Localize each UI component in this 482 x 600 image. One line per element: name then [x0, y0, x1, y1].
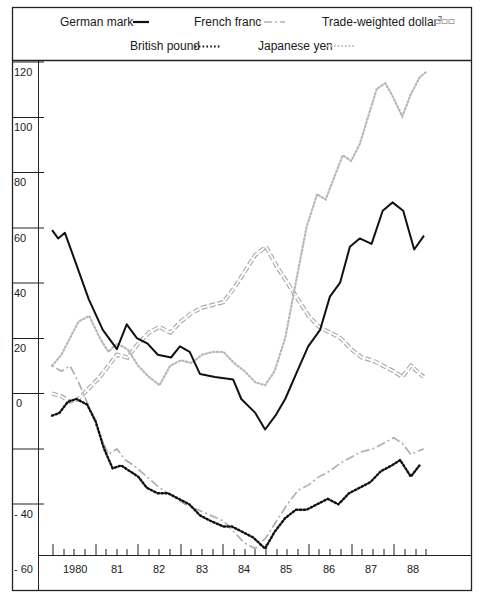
y-tick-label: - 60 — [14, 563, 33, 575]
exchange-rate-chart: German mark French franc Trade-weighted … — [0, 0, 482, 600]
x-tick-label: 85 — [280, 563, 292, 575]
legend-label-french-franc: French franc — [194, 15, 261, 29]
series-british-pound — [52, 399, 419, 549]
legend: German mark French franc Trade-weighted … — [60, 14, 454, 53]
series-german-mark — [52, 202, 424, 429]
y-tick-label: 120 — [14, 66, 32, 78]
y-tick-label: 40 — [14, 287, 26, 299]
legend-label-trade-weighted-dollar: Trade-weighted dollar2 — [322, 14, 443, 29]
y-tick-label: 60 — [14, 232, 26, 244]
y-tick-label: 0 — [16, 397, 22, 409]
y-tick-label: 100 — [14, 121, 32, 133]
legend-label-british-pound: British pound — [130, 39, 200, 53]
x-tick-label: 81 — [111, 563, 123, 575]
chart-frame — [13, 8, 472, 591]
y-tick-label: - 40 — [14, 508, 33, 520]
x-tick-label: 86 — [323, 563, 335, 575]
y-tick-label: 20 — [14, 342, 26, 354]
legend-label-japanese-yen: Japanese yen — [258, 39, 333, 53]
x-tick-label: 82 — [153, 563, 165, 575]
x-axis-labels: 1980 81 82 83 84 85 86 87 88 — [63, 563, 419, 575]
x-tick-label: 84 — [238, 563, 250, 575]
y-axis-labels: 120 100 80 60 40 20 0 - 40 - 60 — [14, 66, 33, 575]
y-tick-label: 80 — [14, 176, 26, 188]
x-axis-ticks — [53, 544, 426, 555]
series-trade-weighted-dollar — [52, 247, 424, 402]
x-tick-label: 88 — [407, 563, 419, 575]
series-trade-weighted-dollar-inner — [52, 247, 424, 402]
x-tick-label: 83 — [196, 563, 208, 575]
x-tick-label: 1980 — [63, 563, 87, 575]
legend-label-german-mark: German mark — [60, 15, 134, 29]
x-tick-label: 87 — [365, 563, 377, 575]
plot-area — [52, 72, 426, 548]
